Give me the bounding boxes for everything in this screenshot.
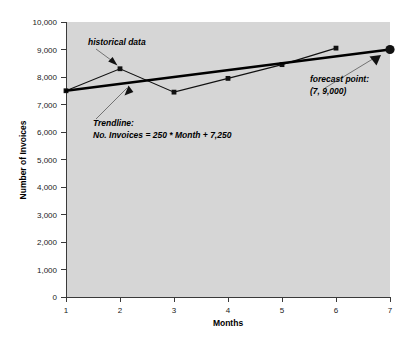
y-tick-label: 6,000 [37, 128, 58, 137]
invoice-forecast-chart: 10,000 9,000 8,000 7,000 6,000 5,000 4,0… [0, 0, 409, 337]
y-tick-label: 10,000 [33, 18, 58, 27]
forecast-label-line1: forecast point: [310, 74, 369, 84]
chart-container: 10,000 9,000 8,000 7,000 6,000 5,000 4,0… [0, 0, 409, 337]
y-tick-label: 1,000 [37, 266, 58, 275]
trendline-label-line2: No. Invoices = 250 * Month + 7,250 [93, 130, 232, 140]
y-tick-label: 4,000 [37, 183, 58, 192]
x-tick-label: 1 [64, 306, 69, 315]
x-tick-label: 4 [226, 306, 231, 315]
y-tick-label: 7,000 [37, 101, 58, 110]
y-tick-label: 2,000 [37, 238, 58, 247]
y-tick-label: 3,000 [37, 211, 58, 220]
x-tick-label: 5 [280, 306, 285, 315]
x-tick-label: 6 [334, 306, 339, 315]
y-tick-label: 0 [53, 293, 58, 302]
x-tick-label: 2 [118, 306, 123, 315]
y-axis-ticks [61, 22, 66, 297]
trendline-label-line1: Trendline: [93, 118, 134, 128]
data-point-marker [334, 46, 339, 51]
y-tick-label: 9,000 [37, 46, 58, 55]
x-tick-label: 3 [172, 306, 177, 315]
forecast-point-marker [385, 45, 394, 54]
x-axis-tick-labels: 1 2 3 4 5 6 7 [64, 306, 393, 315]
data-point-marker [118, 66, 123, 71]
x-axis-ticks [66, 297, 390, 302]
y-tick-label: 5,000 [37, 156, 58, 165]
historical-data-label: historical data [88, 37, 146, 47]
y-axis-title: Number of Invoices [18, 120, 28, 199]
forecast-label-line2: (7, 9,000) [310, 86, 347, 96]
data-point-marker [226, 76, 231, 81]
x-axis-title: Months [213, 318, 243, 328]
y-axis-tick-labels: 10,000 9,000 8,000 7,000 6,000 5,000 4,0… [33, 18, 58, 302]
y-tick-label: 8,000 [37, 73, 58, 82]
x-tick-label: 7 [388, 306, 393, 315]
data-point-marker [172, 90, 177, 95]
